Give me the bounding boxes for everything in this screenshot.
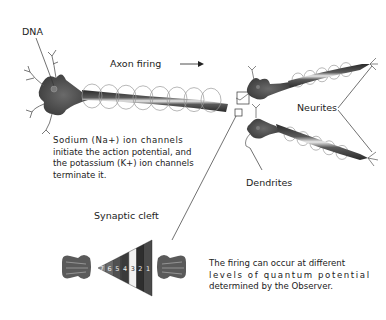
- synaptic-cleft-label: Synaptic cleft: [94, 210, 159, 222]
- pre-synaptic-terminal: [62, 255, 91, 279]
- cleft-level-label: 5: [115, 265, 119, 273]
- dendrites-pointer: [250, 148, 262, 170]
- quantum-caption: The firing can occur at different levels…: [209, 258, 371, 293]
- neurites-label: Neurites: [297, 102, 337, 114]
- nucleus: [51, 86, 57, 92]
- main-neuron: [24, 38, 228, 134]
- axon-firing-arrow: [180, 61, 204, 67]
- synaptic-cleft: 7654321: [62, 240, 186, 296]
- cleft-level-label: 1: [146, 265, 150, 273]
- main-soma: [39, 74, 88, 115]
- cleft-level-label: 3: [131, 265, 135, 273]
- cleft-level-label: 2: [138, 265, 142, 273]
- axon-firing-label: Axon firing: [110, 58, 161, 70]
- synapse-box-small: [235, 109, 242, 116]
- dna-pointer: [36, 38, 54, 86]
- post-synaptic-terminal: [157, 255, 186, 279]
- dendrites-label: Dendrites: [246, 177, 292, 189]
- upper-neuron: [236, 58, 378, 100]
- dna-label: DNA: [22, 26, 43, 38]
- cleft-level-label: 4: [123, 265, 127, 273]
- cleft-level-label: 7: [100, 265, 104, 273]
- ion-channels-caption: Sodium (Na+) ion channels initiate the a…: [53, 135, 194, 181]
- cleft-level-label: 6: [108, 265, 112, 273]
